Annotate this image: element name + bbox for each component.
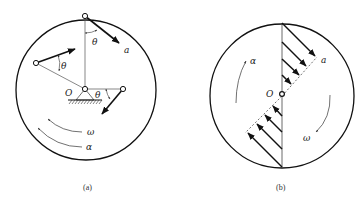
omega-arc-a bbox=[48, 119, 82, 132]
accel-arrow-right bbox=[102, 89, 123, 114]
label-pivot-o-a: O bbox=[65, 88, 73, 98]
label-theta-top: θ bbox=[92, 37, 98, 47]
caption-a: (a) bbox=[83, 183, 92, 192]
label-accel-b: a bbox=[321, 55, 326, 65]
joint-top bbox=[82, 13, 87, 18]
theta-arc-right bbox=[106, 89, 110, 99]
theta-arc-left bbox=[58, 55, 60, 71]
label-theta-right: θ bbox=[95, 90, 101, 100]
label-theta-left: θ bbox=[61, 61, 67, 71]
omega-arc-b bbox=[316, 95, 330, 132]
label-pivot-o-b: O bbox=[266, 89, 274, 99]
panel-b: α a O ω (b) bbox=[210, 23, 354, 192]
label-alpha-a: α bbox=[86, 142, 92, 152]
alpha-arc-b bbox=[236, 61, 246, 103]
caption-b: (b) bbox=[276, 183, 286, 192]
label-alpha-b: α bbox=[250, 56, 256, 66]
joint-right bbox=[120, 86, 125, 91]
distribution-line-upper bbox=[282, 57, 317, 96]
figure-canvas: θ θ θ a O ω α (a) bbox=[0, 0, 360, 202]
label-omega-b: ω bbox=[303, 133, 311, 143]
accel-arrow-left bbox=[36, 49, 75, 63]
alpha-arc-a bbox=[38, 128, 82, 147]
label-omega-a: ω bbox=[87, 127, 95, 137]
label-accel-a: a bbox=[124, 45, 129, 55]
accel-distribution-upper bbox=[282, 23, 315, 84]
pivot-o-a bbox=[82, 86, 87, 91]
pivot-o-b bbox=[280, 92, 285, 97]
theta-arc-top bbox=[85, 30, 97, 33]
accel-distribution-lower bbox=[248, 106, 282, 167]
panel-a: θ θ θ a O ω α (a) bbox=[16, 13, 156, 192]
accel-arrow-top bbox=[85, 16, 119, 43]
joint-left bbox=[33, 60, 38, 65]
